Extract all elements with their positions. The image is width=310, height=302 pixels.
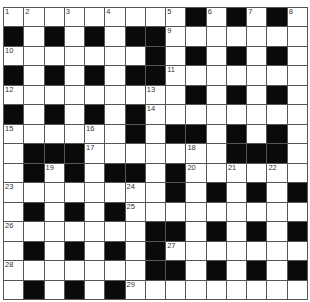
crossword-cell[interactable] [45, 242, 64, 260]
crossword-cell[interactable] [166, 86, 185, 104]
crossword-cell[interactable] [24, 222, 43, 240]
crossword-cell[interactable] [227, 222, 246, 240]
crossword-cell[interactable] [227, 66, 246, 84]
crossword-cell[interactable]: 23 [4, 183, 23, 201]
crossword-cell[interactable] [126, 47, 145, 65]
crossword-cell[interactable]: 22 [267, 164, 286, 182]
crossword-cell[interactable]: 29 [126, 281, 145, 299]
crossword-cell[interactable] [85, 222, 104, 240]
crossword-cell[interactable] [288, 27, 307, 45]
crossword-cell[interactable]: 18 [186, 144, 205, 162]
crossword-cell[interactable] [207, 144, 226, 162]
crossword-cell[interactable] [288, 86, 307, 104]
crossword-cell[interactable] [288, 203, 307, 221]
crossword-cell[interactable]: 14 [146, 105, 165, 123]
crossword-cell[interactable]: 20 [186, 164, 205, 182]
crossword-cell[interactable] [247, 125, 266, 143]
crossword-cell[interactable] [288, 105, 307, 123]
crossword-cell[interactable] [227, 281, 246, 299]
crossword-cell[interactable]: 25 [126, 203, 145, 221]
crossword-cell[interactable] [105, 47, 124, 65]
crossword-cell[interactable] [105, 222, 124, 240]
crossword-cell[interactable] [146, 8, 165, 26]
crossword-cell[interactable] [288, 125, 307, 143]
crossword-cell[interactable]: 24 [126, 183, 145, 201]
crossword-cell[interactable] [207, 27, 226, 45]
crossword-cell[interactable] [207, 281, 226, 299]
crossword-cell[interactable] [126, 8, 145, 26]
crossword-cell[interactable] [227, 203, 246, 221]
crossword-cell[interactable] [247, 66, 266, 84]
crossword-cell[interactable] [166, 203, 185, 221]
crossword-cell[interactable] [227, 242, 246, 260]
crossword-cell[interactable] [207, 125, 226, 143]
crossword-cell[interactable] [288, 164, 307, 182]
crossword-cell[interactable] [267, 183, 286, 201]
crossword-cell[interactable] [24, 47, 43, 65]
crossword-cell[interactable]: 19 [45, 164, 64, 182]
crossword-cell[interactable] [267, 105, 286, 123]
crossword-cell[interactable] [45, 86, 64, 104]
crossword-cell[interactable] [288, 66, 307, 84]
crossword-cell[interactable] [24, 105, 43, 123]
crossword-cell[interactable] [85, 183, 104, 201]
crossword-cell[interactable] [146, 164, 165, 182]
crossword-cell[interactable]: 1 [4, 8, 23, 26]
crossword-cell[interactable] [207, 86, 226, 104]
crossword-cell[interactable] [45, 222, 64, 240]
crossword-cell[interactable] [4, 144, 23, 162]
crossword-cell[interactable] [65, 222, 84, 240]
crossword-cell[interactable] [186, 27, 205, 45]
crossword-cell[interactable] [247, 105, 266, 123]
crossword-cell[interactable] [146, 203, 165, 221]
crossword-cell[interactable] [146, 144, 165, 162]
crossword-cell[interactable] [45, 203, 64, 221]
crossword-cell[interactable] [24, 66, 43, 84]
crossword-cell[interactable] [85, 47, 104, 65]
crossword-cell[interactable] [227, 105, 246, 123]
crossword-cell[interactable] [65, 183, 84, 201]
crossword-cell[interactable] [45, 8, 64, 26]
crossword-cell[interactable] [247, 203, 266, 221]
crossword-cell[interactable] [126, 222, 145, 240]
crossword-cell[interactable] [4, 281, 23, 299]
crossword-cell[interactable]: 2 [24, 8, 43, 26]
crossword-cell[interactable] [186, 105, 205, 123]
crossword-cell[interactable] [186, 183, 205, 201]
crossword-cell[interactable] [186, 242, 205, 260]
crossword-cell[interactable]: 6 [207, 8, 226, 26]
crossword-cell[interactable] [247, 164, 266, 182]
crossword-cell[interactable] [166, 105, 185, 123]
crossword-cell[interactable] [267, 222, 286, 240]
crossword-cell[interactable]: 9 [166, 27, 185, 45]
crossword-cell[interactable] [247, 27, 266, 45]
crossword-cell[interactable] [24, 125, 43, 143]
crossword-cell[interactable] [207, 47, 226, 65]
crossword-cell[interactable] [207, 164, 226, 182]
crossword-cell[interactable]: 27 [166, 242, 185, 260]
crossword-cell[interactable] [4, 203, 23, 221]
crossword-cell[interactable] [146, 281, 165, 299]
crossword-cell[interactable] [166, 144, 185, 162]
crossword-cell[interactable] [65, 27, 84, 45]
crossword-cell[interactable] [85, 261, 104, 279]
crossword-cell[interactable] [45, 183, 64, 201]
crossword-cell[interactable]: 5 [166, 8, 185, 26]
crossword-cell[interactable] [247, 281, 266, 299]
crossword-cell[interactable] [186, 222, 205, 240]
crossword-cell[interactable] [85, 164, 104, 182]
crossword-cell[interactable] [4, 164, 23, 182]
crossword-cell[interactable]: 12 [4, 86, 23, 104]
crossword-cell[interactable]: 11 [166, 66, 185, 84]
crossword-cell[interactable] [85, 8, 104, 26]
crossword-cell[interactable] [207, 105, 226, 123]
crossword-cell[interactable] [105, 125, 124, 143]
crossword-cell[interactable]: 4 [105, 8, 124, 26]
crossword-cell[interactable] [267, 261, 286, 279]
crossword-cell[interactable] [288, 281, 307, 299]
crossword-cell[interactable] [105, 86, 124, 104]
crossword-cell[interactable] [65, 105, 84, 123]
crossword-cell[interactable] [24, 86, 43, 104]
crossword-cell[interactable]: 26 [4, 222, 23, 240]
crossword-cell[interactable] [24, 27, 43, 45]
